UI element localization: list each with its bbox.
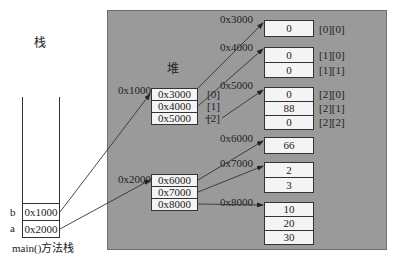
arrow-0x7000 bbox=[198, 166, 263, 192]
arrow-0x3000 bbox=[198, 23, 263, 88]
arrow-0x4000 bbox=[198, 49, 263, 106]
arrow-0x5000 bbox=[222, 90, 263, 118]
arrow-0x6000 bbox=[198, 141, 263, 180]
arrow-0x8000 bbox=[198, 204, 263, 205]
arrow-b-to-0x1000 bbox=[60, 94, 150, 212]
reference-arrows bbox=[0, 0, 394, 258]
arrow-a-to-0x2000 bbox=[60, 180, 150, 229]
